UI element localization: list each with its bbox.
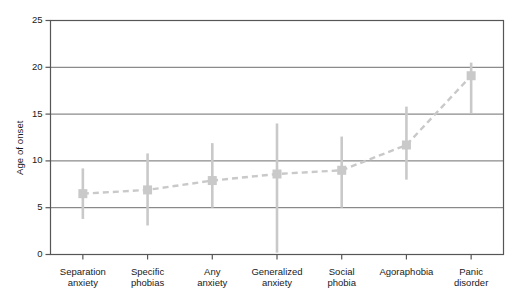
y-axis-ticks	[46, 21, 51, 255]
x-category-label-line: disorder	[428, 277, 514, 289]
data-point-marker	[402, 140, 411, 149]
data-point-marker	[273, 170, 282, 179]
plot-area	[0, 0, 518, 301]
data-point-marker	[208, 176, 217, 185]
x-category-label-line: phobia	[299, 277, 385, 289]
x-category-label: Panicdisorder	[428, 266, 514, 289]
y-tick-label: 10	[15, 154, 43, 165]
data-point-marker	[78, 189, 87, 198]
x-category-label-line: Panic	[428, 266, 514, 278]
error-bars	[83, 63, 471, 253]
y-axis-title: Age of onset	[14, 120, 25, 175]
data-point-marker	[337, 166, 346, 175]
y-tick-label: 25	[15, 14, 43, 25]
y-tick-label: 20	[15, 61, 43, 72]
data-point-marker	[467, 71, 476, 80]
y-tick-label: 5	[15, 201, 43, 212]
y-tick-label: 0	[15, 248, 43, 259]
y-tick-label: 15	[15, 108, 43, 119]
data-point-marker	[143, 185, 152, 194]
x-axis-ticks	[83, 255, 471, 260]
chart-container: Age of onset 0510152025 Separationanxiet…	[0, 0, 518, 301]
